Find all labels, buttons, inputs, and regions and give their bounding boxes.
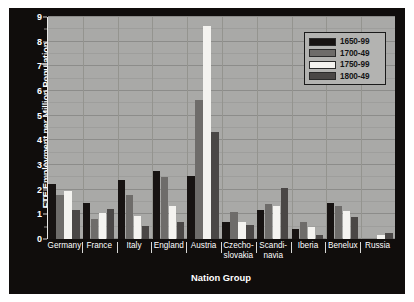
bar: [300, 222, 307, 240]
group-separator: [257, 17, 258, 239]
bar: [187, 176, 194, 239]
bar: [203, 26, 210, 239]
legend-swatch: [309, 61, 336, 69]
x-tick-label: Italy: [117, 241, 152, 251]
bar: [327, 203, 334, 239]
legend-swatch: [309, 72, 336, 80]
legend-item[interactable]: 1750-99: [309, 59, 381, 71]
legend-label: 1750-99: [340, 60, 369, 69]
x-tick-label: Scandi- navia: [256, 241, 291, 261]
bar: [377, 235, 384, 239]
y-tick-label: 8: [37, 37, 42, 47]
group-separator: [222, 17, 223, 239]
legend-item[interactable]: 1650-99: [309, 36, 381, 48]
group-separator: [292, 17, 293, 239]
legend-swatch: [309, 38, 336, 46]
x-tick-label: Germany: [47, 241, 82, 251]
y-tick-label: 9: [37, 12, 42, 22]
bar: [56, 195, 63, 239]
bar: [238, 222, 245, 239]
legend-label: 1650-99: [340, 37, 369, 46]
bar: [222, 222, 229, 239]
bar: [64, 191, 71, 239]
y-tick-label: 5: [37, 111, 42, 121]
x-axis-ticks: GermanyFranceItalyEnglandAustriaCzecho- …: [47, 241, 395, 271]
bar: [118, 180, 125, 239]
bar: [385, 233, 392, 239]
bar: [257, 210, 264, 239]
x-label-separator: [221, 242, 222, 253]
bar: [99, 213, 106, 239]
x-label-separator: [117, 242, 118, 253]
bar: [273, 206, 280, 239]
bar: [265, 204, 272, 239]
legend-item[interactable]: 1800-49: [309, 71, 381, 83]
x-label-separator: [186, 242, 187, 253]
bar: [169, 206, 176, 239]
x-tick-label: England: [151, 241, 186, 251]
bar: [308, 227, 315, 239]
x-tick-label: Austria: [186, 241, 221, 251]
x-label-separator: [82, 242, 83, 253]
legend-label: 1800-49: [340, 72, 369, 81]
bar: [142, 226, 149, 239]
x-axis-title: Nation Group: [47, 272, 395, 283]
x-label-separator: [360, 242, 361, 253]
chart-figure: FTE Employment per Million Population 01…: [9, 8, 405, 294]
bar: [177, 222, 184, 240]
bar: [107, 209, 114, 239]
y-tick-label: 3: [37, 160, 42, 170]
bar: [91, 219, 98, 239]
x-label-separator: [151, 242, 152, 253]
bar: [316, 235, 323, 239]
x-tick-label: France: [82, 241, 117, 251]
bar: [343, 211, 350, 239]
y-tick-label: 2: [37, 185, 42, 195]
bar: [292, 229, 299, 239]
x-tick-label: Benelux: [325, 241, 360, 251]
legend-item[interactable]: 1700-49: [309, 48, 381, 60]
bar: [195, 100, 202, 239]
x-tick-label: Iberia: [291, 241, 326, 251]
bar: [161, 177, 168, 239]
legend-label: 1700-49: [340, 49, 369, 58]
y-tick-label: 0: [37, 234, 42, 244]
bar: [211, 132, 218, 239]
bar: [335, 206, 342, 239]
bar: [48, 184, 55, 239]
y-tick-label: 6: [37, 86, 42, 96]
bar: [281, 188, 288, 239]
y-tick-label: 1: [37, 209, 42, 219]
bar: [126, 195, 133, 239]
legend: 1650-991700-491750-991800-49: [304, 32, 386, 85]
bar: [72, 210, 79, 239]
legend-swatch: [309, 49, 336, 57]
x-tick-label: Russia: [360, 241, 395, 251]
x-label-separator: [291, 242, 292, 253]
bar: [83, 203, 90, 240]
y-tick-label: 4: [37, 135, 42, 145]
x-label-separator: [256, 242, 257, 253]
bar: [134, 216, 141, 239]
bar: [246, 225, 253, 239]
x-tick-label: Czecho- slovakia: [221, 241, 256, 261]
y-tick-label: 7: [37, 61, 42, 71]
y-axis-ticks: 0123456789: [25, 8, 47, 294]
bar: [230, 212, 237, 239]
x-label-separator: [325, 242, 326, 253]
bar: [351, 217, 358, 239]
bar: [153, 171, 160, 239]
